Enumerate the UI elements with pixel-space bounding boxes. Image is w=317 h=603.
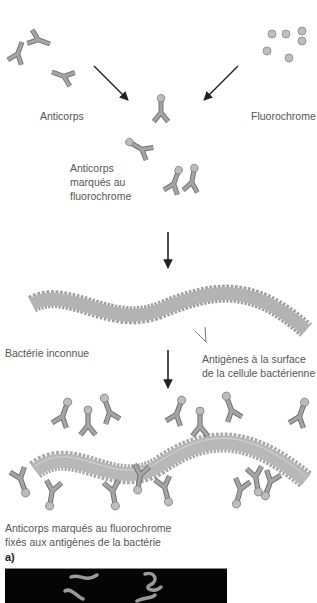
panel-label: a) (5, 551, 15, 564)
fluorescence-micrograph (5, 568, 227, 603)
fluorochrome-label: Fluorochrome (251, 110, 316, 123)
labeled-antibodies (123, 94, 202, 194)
antibodies-label: Anticorps (40, 110, 84, 123)
unknown-bacterium (32, 294, 306, 330)
arrow-icon (204, 66, 238, 100)
glowing-bacteria-icon (5, 569, 227, 603)
arrow-icon (94, 66, 128, 100)
unknown-bacterium-label: Bactérie inconnue (5, 347, 89, 360)
free-antibodies (8, 30, 75, 86)
fluorochrome-dots (263, 27, 306, 62)
